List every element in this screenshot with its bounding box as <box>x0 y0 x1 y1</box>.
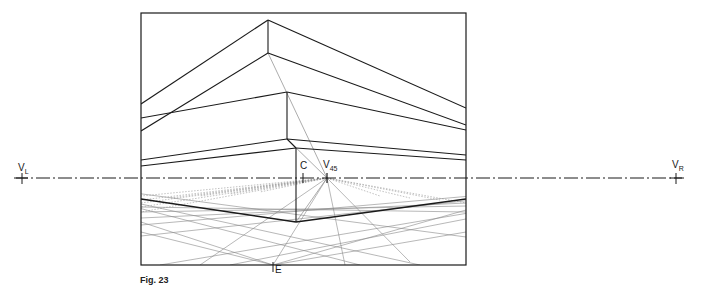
figure-caption: Fig. 23 <box>140 275 169 285</box>
vr-label: VR <box>672 159 684 172</box>
v45-label: V45 <box>323 159 338 172</box>
vanishing-point-right <box>670 173 682 184</box>
perspective-diagram: VL VR C V45 E <box>0 0 720 303</box>
picture-frame <box>141 13 466 265</box>
c-label: C <box>300 160 307 171</box>
vl-label: VL <box>18 162 29 175</box>
floor-grid <box>22 178 676 265</box>
construction-lines <box>268 53 327 222</box>
building <box>141 20 466 222</box>
e-label: E <box>275 264 282 275</box>
